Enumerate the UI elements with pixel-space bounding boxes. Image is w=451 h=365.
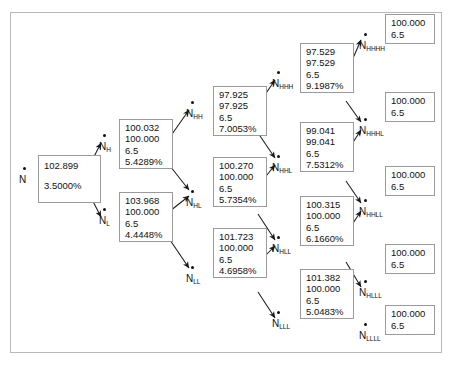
node-label-subscript: HHHH (366, 45, 385, 52)
node-label-hl: NHL (186, 198, 202, 208)
node-dot-llll (364, 323, 367, 326)
value-box-l: 103.968 100.000 6.5 4.4448% (119, 192, 173, 242)
node-dot-hh (191, 101, 194, 104)
node-dot-root (23, 167, 26, 170)
node-dot-ll (191, 266, 194, 269)
node-dot-hhhh (364, 33, 367, 36)
node-dot-hl (191, 190, 194, 193)
value-line: 101.723 (219, 231, 262, 242)
value-line: 100.315 (306, 199, 349, 210)
node-label-hhh: NHHH (272, 79, 293, 89)
value-line: 6.5 (391, 181, 430, 193)
value-line: 100.000 (391, 169, 430, 181)
value-line: 6.5 (125, 218, 168, 229)
value-line: 100.000 (219, 171, 262, 182)
value-line: 6.5 (125, 145, 168, 156)
value-line: 97.925 (219, 89, 262, 100)
node-dot-hhhl (364, 118, 367, 121)
value-line: 6.5 (219, 183, 262, 194)
node-label-hhhl: NHHHL (359, 126, 384, 136)
node-label-subscript: LLLL (366, 335, 380, 342)
value-box-root: 102.899 3.5000% (38, 155, 101, 203)
value-box-hll: 100.315 100.000 6.5 6.1660% (300, 196, 354, 246)
value-box-ll: 101.723 100.000 6.5 4.6958% (213, 228, 267, 278)
value-line: 100.000 (391, 95, 430, 107)
node-label-hhhh: NHHHH (359, 41, 385, 51)
node-label-subscript: HLL (279, 248, 291, 255)
value-line: 100.000 (391, 247, 430, 259)
value-line: 97.925 (219, 100, 262, 111)
value-line: 6.1660% (306, 233, 349, 244)
value-box-hhhl: 100.000 6.5 (385, 92, 435, 122)
node-dot-hlll (364, 280, 367, 283)
value-box-hhll: 100.000 6.5 (385, 166, 435, 196)
value-box-hhh: 97.529 97.529 6.5 9.1987% (300, 43, 354, 93)
node-label-hhll: NHHLL (359, 207, 383, 217)
value-box-lll: 101.382 100.000 6.5 5.0483% (300, 269, 354, 319)
node-label-subscript: L (106, 220, 110, 227)
node-dot-lll (277, 311, 280, 314)
node-label-subscript: LLL (279, 323, 290, 330)
value-line: 6.5 (306, 222, 349, 233)
node-label-hll: NHLL (272, 244, 291, 254)
node-label-subscript: HHLL (366, 211, 383, 218)
value-line: 101.382 (306, 272, 349, 283)
node-label-subscript: HH (193, 113, 202, 120)
value-line: 100.000 (125, 206, 168, 217)
value-box-h: 100.032 100.000 6.5 5.4289% (119, 119, 173, 169)
value-line: 100.000 (306, 210, 349, 221)
node-label-subscript: HHL (279, 167, 292, 174)
value-box-hl: 100.270 100.000 6.5 5.7354% (213, 157, 267, 207)
value-box-llll: 100.000 6.5 (385, 305, 435, 335)
node-dot-hhll (364, 199, 367, 202)
value-line: 5.7354% (219, 194, 262, 205)
value-line: 97.529 (306, 46, 349, 57)
value-line: 4.4448% (125, 229, 168, 240)
node-label-subscript: HHHL (366, 130, 384, 137)
value-line: 100.032 (125, 122, 168, 133)
diagram-canvas: N 102.899 3.5000% NH 100.032 100.000 6.5… (0, 0, 451, 365)
value-line: 100.000 (391, 17, 430, 29)
value-line: 6.5 (306, 148, 349, 159)
node-label-subscript: HHH (279, 83, 293, 90)
value-line: 100.000 (391, 308, 430, 320)
node-label-ll: NLL (186, 274, 200, 284)
value-line: 6.5 (306, 295, 349, 306)
value-line: 103.968 (125, 195, 168, 206)
value-line: 3.5000% (44, 180, 96, 191)
value-box-hhl: 99.041 99.041 6.5 7.5312% (300, 122, 354, 172)
node-label-text: N (19, 174, 26, 185)
value-box-hhhh: 100.000 6.5 (385, 14, 435, 44)
value-line: 6.5 (391, 259, 430, 271)
node-label-lll: NLLL (272, 319, 290, 329)
node-label-subscript: HLLL (366, 292, 382, 299)
value-line: 6.5 (391, 29, 430, 41)
value-line: 9.1987% (306, 80, 349, 91)
node-label-h: NH (99, 142, 111, 152)
value-box-hh: 97.925 97.925 6.5 7.0053% (213, 86, 267, 136)
node-dot-hhl (277, 155, 280, 158)
node-label-hhl: NHHL (272, 163, 292, 173)
value-line: 5.4289% (125, 156, 168, 167)
node-label-llll: NLLLL (359, 331, 381, 341)
node-dot-hll (277, 236, 280, 239)
value-line: 6.5 (306, 69, 349, 80)
value-line: 100.270 (219, 160, 262, 171)
node-dot-h (103, 134, 106, 137)
node-label-subscript: HL (193, 202, 201, 209)
node-label-root: N (19, 175, 26, 185)
value-line: 6.5 (391, 107, 430, 119)
value-line: 4.6958% (219, 265, 262, 276)
node-dot-hhh (277, 71, 280, 74)
value-line: 100.000 (306, 283, 349, 294)
value-line: 5.0483% (306, 306, 349, 317)
value-line: 99.041 (306, 125, 349, 136)
value-line: 97.529 (306, 57, 349, 68)
node-label-hh: NHH (186, 109, 203, 119)
value-line: 6.5 (391, 320, 430, 332)
value-line: 102.899 (44, 160, 96, 171)
node-dot-l (103, 208, 106, 211)
node-label-subscript: H (106, 146, 111, 153)
value-box-hlll: 100.000 6.5 (385, 244, 435, 274)
node-label-l: NL (99, 216, 110, 226)
